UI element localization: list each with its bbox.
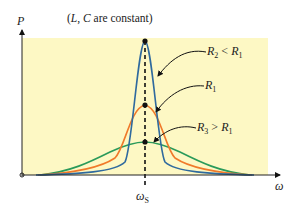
peak-dot-r1 <box>142 102 147 107</box>
note-c: C <box>83 12 91 24</box>
label-r1: R1 <box>205 79 216 94</box>
label-r3: R3 > R1 <box>197 121 232 136</box>
r1-subscript: 1 <box>212 85 216 94</box>
x-axis-label: ω <box>275 180 283 192</box>
label-r2: R2 < R1 <box>207 45 242 60</box>
peak-dot-r2 <box>142 38 147 43</box>
y-axis-label: P <box>17 15 24 27</box>
r3-ref-subscript: 1 <box>228 127 232 136</box>
resonance-frequency-label: ωS <box>136 190 149 204</box>
r2-ref-subscript: 1 <box>238 51 242 60</box>
r3-relation: > <box>208 120 221 134</box>
resonance-chart <box>0 0 297 204</box>
r2-relation: < <box>218 44 231 58</box>
peak-dot-r3 <box>142 139 147 144</box>
omega-s-subscript: S <box>144 196 148 204</box>
note-rest: are constant) <box>91 12 153 24</box>
constants-note: (L, C are constant) <box>67 13 153 25</box>
